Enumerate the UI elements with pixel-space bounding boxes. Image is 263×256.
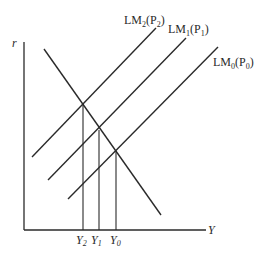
lm1-curve: [48, 38, 186, 180]
is-curve: [44, 49, 161, 215]
is-lm-diagram: r Y LM2(P2) LM1(P1) LM0(P0) Y2 Y1 Y0: [0, 0, 263, 256]
y2-label: Y2: [76, 233, 87, 248]
lm0-curve: [68, 47, 218, 199]
y1-label: Y1: [91, 233, 102, 248]
y0-label: Y0: [110, 233, 121, 248]
lm2-curve: [32, 28, 156, 157]
lm2-label: LM2(P2): [124, 13, 165, 29]
x-axis-label: Y: [208, 223, 216, 237]
y-axis-label: r: [12, 36, 17, 50]
lm0-label: LM0(P0): [213, 55, 254, 71]
lm1-label: LM1(P1): [168, 22, 209, 38]
